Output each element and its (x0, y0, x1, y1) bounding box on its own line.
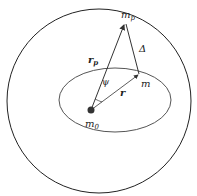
inner-orbit-ellipse (59, 68, 171, 132)
psi-label: ψ (102, 77, 110, 87)
delta-label: Δ (138, 43, 146, 54)
rp-label: rp (88, 54, 98, 67)
mp-label: mp (121, 9, 135, 22)
m-label: m (141, 78, 150, 89)
psi-angle-arc (95, 99, 102, 102)
r-label: r (120, 87, 126, 98)
central-body-dot (88, 107, 95, 114)
orbit-diagram: mp rp Δ ψ m r m0 (0, 0, 197, 196)
delta-line (126, 24, 139, 74)
